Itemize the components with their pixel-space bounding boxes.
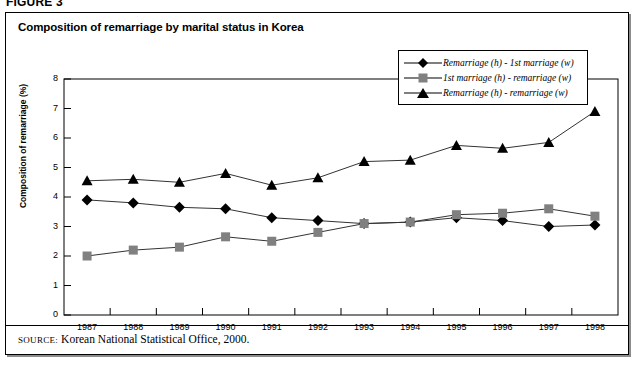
x-tick-label: 1992 bbox=[295, 322, 341, 332]
legend-label-1: 1st marriage (h) - remarriage (w) bbox=[443, 73, 571, 83]
y-axis-title: Composition of remarriage (%) bbox=[18, 71, 28, 221]
y-tick-label: 0 bbox=[38, 309, 58, 319]
data-point-marker bbox=[267, 237, 276, 246]
data-point-marker bbox=[221, 232, 230, 241]
source-text: Korean National Statistical Office, 2000… bbox=[61, 333, 249, 345]
x-tick-label: 1995 bbox=[433, 322, 479, 332]
data-point-marker bbox=[498, 209, 507, 218]
legend-marker-diamond-icon bbox=[403, 56, 443, 70]
legend-label-0: Remarriage (h) - 1st marriage (w) bbox=[443, 58, 574, 68]
legend-item: Remarriage (h) - 1st marriage (w) bbox=[403, 55, 581, 70]
data-point-marker bbox=[220, 203, 231, 214]
data-point-marker bbox=[313, 228, 322, 237]
data-point-marker bbox=[266, 212, 277, 223]
source-label: SOURCE: bbox=[18, 335, 58, 345]
x-tick-label: 1990 bbox=[203, 322, 249, 332]
data-point-marker bbox=[129, 246, 138, 255]
x-tick-label: 1991 bbox=[249, 322, 295, 332]
y-tick-label: 8 bbox=[38, 73, 58, 83]
x-tick-label: 1998 bbox=[572, 322, 618, 332]
figure-label: FIGURE 3 bbox=[6, 0, 63, 8]
chart-legend: Remarriage (h) - 1st marriage (w) 1st ma… bbox=[398, 50, 588, 105]
x-tick-label: 1988 bbox=[110, 322, 156, 332]
y-tick-label: 3 bbox=[38, 221, 58, 231]
y-tick-label: 1 bbox=[38, 280, 58, 290]
y-tick-label: 6 bbox=[38, 132, 58, 142]
source-note: SOURCE:Korean National Statistical Offic… bbox=[18, 333, 249, 345]
y-tick-label: 4 bbox=[38, 191, 58, 201]
legend-item: 1st marriage (h) - remarriage (w) bbox=[403, 70, 581, 85]
data-point-marker bbox=[83, 252, 92, 261]
legend-marker-square-icon bbox=[403, 71, 443, 85]
data-point-marker bbox=[451, 140, 462, 150]
legend-item: Remarriage (h) - remarriage (w) bbox=[403, 85, 581, 100]
x-tick-label: 1996 bbox=[480, 322, 526, 332]
y-tick-label: 2 bbox=[38, 250, 58, 260]
y-tick-label: 5 bbox=[38, 162, 58, 172]
data-point-marker bbox=[175, 243, 184, 252]
data-point-marker bbox=[589, 106, 600, 116]
data-point-marker bbox=[590, 212, 599, 221]
legend-label-2: Remarriage (h) - remarriage (w) bbox=[443, 88, 568, 98]
chart-panel: Composition of remarriage by marital sta… bbox=[5, 12, 629, 355]
y-tick-label: 7 bbox=[38, 103, 58, 113]
data-point-marker bbox=[360, 219, 369, 228]
figure-container: FIGURE 3 Composition of remarriage by ma… bbox=[0, 0, 639, 365]
x-tick-label: 1989 bbox=[156, 322, 202, 332]
data-point-marker bbox=[220, 168, 231, 178]
data-point-marker bbox=[312, 172, 323, 182]
data-point-marker bbox=[312, 215, 323, 226]
data-point-marker bbox=[82, 194, 93, 205]
data-point-marker bbox=[544, 204, 553, 213]
data-point-marker bbox=[543, 137, 554, 147]
data-point-marker bbox=[406, 218, 415, 227]
legend-marker-triangle-icon bbox=[403, 86, 443, 100]
x-tick-label: 1993 bbox=[341, 322, 387, 332]
data-point-marker bbox=[452, 210, 461, 219]
data-point-marker bbox=[128, 197, 139, 208]
data-point-marker bbox=[405, 155, 416, 165]
x-tick-label: 1994 bbox=[387, 322, 433, 332]
x-tick-label: 1987 bbox=[64, 322, 110, 332]
data-point-marker bbox=[128, 174, 139, 184]
x-tick-label: 1997 bbox=[526, 322, 572, 332]
data-point-marker bbox=[174, 202, 185, 213]
data-point-marker bbox=[589, 220, 600, 231]
data-point-marker bbox=[543, 221, 554, 232]
source-divider bbox=[6, 325, 628, 326]
